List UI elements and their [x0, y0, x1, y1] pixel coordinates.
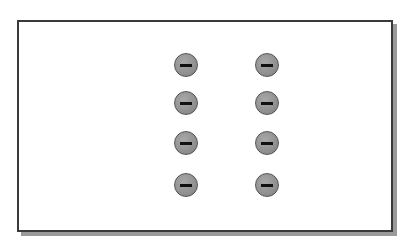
negative-charge	[255, 131, 279, 155]
minus-icon	[180, 64, 192, 67]
diagram-frame	[17, 20, 393, 232]
negative-charge	[174, 53, 198, 77]
minus-icon	[261, 142, 273, 145]
minus-icon	[180, 142, 192, 145]
minus-icon	[180, 102, 192, 105]
negative-charge	[174, 173, 198, 197]
negative-charge	[174, 91, 198, 115]
minus-icon	[261, 102, 273, 105]
minus-icon	[180, 184, 192, 187]
negative-charge	[255, 91, 279, 115]
minus-icon	[261, 184, 273, 187]
negative-charge	[255, 173, 279, 197]
negative-charge	[174, 131, 198, 155]
minus-icon	[261, 64, 273, 67]
negative-charge	[255, 53, 279, 77]
